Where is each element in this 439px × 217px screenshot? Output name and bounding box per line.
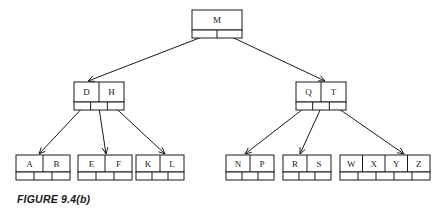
btree-edge <box>334 107 404 154</box>
node-pointer-row <box>226 172 274 180</box>
node-pointer-row <box>74 102 124 110</box>
btree-canvas: MDHQTABEFKLNPRSWXYZ <box>0 0 439 217</box>
edge-line <box>338 108 404 154</box>
node-key: Y <box>393 159 400 169</box>
figure-caption: FIGURE 9.4(b) <box>17 193 90 205</box>
btree-node: EF <box>78 155 132 180</box>
node-key: H <box>108 87 115 97</box>
node-key: A <box>26 159 33 169</box>
edge-line <box>99 108 106 154</box>
btree-node: WXYZ <box>340 155 430 180</box>
btree-node: DH <box>74 82 124 110</box>
node-pointer-row <box>283 172 331 180</box>
node-pointer-row <box>16 172 70 180</box>
edge-line <box>116 108 165 154</box>
node-key: T <box>331 87 337 97</box>
node-key: P <box>259 159 264 169</box>
nodes-layer: MDHQTABEFKLNPRSWXYZ <box>16 10 430 180</box>
edge-line <box>245 108 304 154</box>
btree-node: NP <box>226 155 274 180</box>
node-key: L <box>169 159 175 169</box>
node-key: X <box>371 159 378 169</box>
node-key: Q <box>305 87 312 97</box>
node-key: N <box>235 159 242 169</box>
edge-line <box>230 36 326 81</box>
btree-edge <box>112 107 165 154</box>
btree-edge <box>88 35 208 82</box>
edge-line <box>39 108 82 154</box>
node-key: K <box>145 159 152 169</box>
node-key: W <box>347 159 356 169</box>
node-key: Z <box>416 159 422 169</box>
node-key: S <box>316 159 321 169</box>
arrow-head-icon <box>397 148 404 154</box>
node-key: R <box>292 159 298 169</box>
btree-edge <box>300 107 324 154</box>
node-key: M <box>213 15 221 25</box>
btree-edge <box>245 107 308 154</box>
btree-figure: MDHQTABEFKLNPRSWXYZ FIGURE 9.4(b) <box>0 0 439 217</box>
node-pointer-row <box>136 172 184 180</box>
node-key: D <box>83 87 90 97</box>
btree-node: M <box>192 10 242 38</box>
edge-line <box>88 36 205 81</box>
btree-node: KL <box>136 155 184 180</box>
btree-edge <box>96 107 108 154</box>
node-pointer-row <box>296 102 346 110</box>
node-key: E <box>89 159 95 169</box>
btree-edge <box>226 35 325 81</box>
node-pointer-row <box>340 172 430 180</box>
node-key: B <box>53 159 59 169</box>
btree-edge <box>39 107 86 154</box>
node-key: F <box>116 159 121 169</box>
btree-node: AB <box>16 155 70 180</box>
edge-line <box>300 108 321 154</box>
btree-node: RS <box>283 155 331 180</box>
btree-node: QT <box>296 82 346 110</box>
node-pointer-row <box>78 172 132 180</box>
